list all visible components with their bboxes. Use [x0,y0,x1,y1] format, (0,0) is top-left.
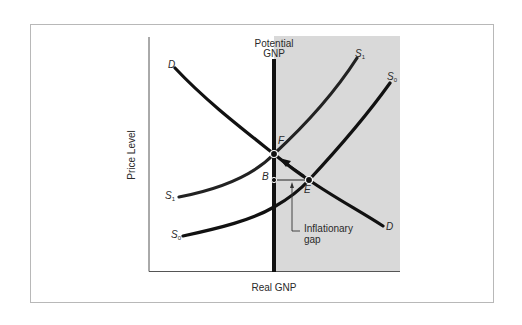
inflationary-gap-label-line1: Inflationary [304,223,353,234]
point-e-label: E [304,184,311,195]
y-axis-title: Price Level [126,130,137,179]
point-f-label: F [278,135,285,146]
point-b-marker [271,177,276,182]
s1-label-left: S1 [165,190,176,202]
inflationary-region-shade [274,36,400,271]
demand-label-top: D [168,59,175,70]
x-axis-title: Real GNP [251,282,296,293]
inflationary-gap-label-line2: gap [304,234,321,245]
point-f-marker [271,151,278,158]
point-b-label: B [262,171,269,182]
s0-label-left: S0 [171,229,182,241]
point-e-marker [306,177,313,184]
potential-gnp-label-line2: GNP [263,48,285,59]
supply-demand-diagram: Potential GNP D D S1 S1 S0 S0 F E B Infl… [0,0,522,325]
demand-label-bottom: D [386,221,393,232]
